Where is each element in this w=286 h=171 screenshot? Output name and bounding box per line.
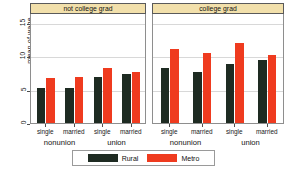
bar-metro [132, 72, 141, 123]
x-axis-group-label: nonunion [156, 138, 216, 147]
x-axis-tick-mark [234, 124, 235, 127]
legend-label-rural: Rural [122, 155, 139, 162]
panel-strip-label: college grad [152, 3, 284, 14]
panel-strip-label: not college grad [30, 3, 146, 14]
y-axis-tick-label: 0 [0, 119, 26, 126]
panel-not-college-grad: not college grad [30, 3, 146, 124]
legend-swatch-rural [88, 154, 118, 162]
bar-metro [235, 43, 244, 123]
legend-item-rural: Rural [88, 154, 139, 162]
y-axis-tick-label: 5 [0, 86, 26, 93]
legend-item-metro: Metro [147, 154, 199, 162]
bar-rural [226, 64, 235, 123]
panel-college-grad: college grad [152, 3, 284, 124]
x-axis-tick-mark [102, 124, 103, 127]
x-axis-category-label: married [247, 128, 286, 135]
legend: Rural Metro [72, 150, 215, 166]
bar-rural [258, 60, 267, 123]
bar-metro [203, 53, 212, 123]
bar-metro [268, 55, 277, 123]
x-axis-tick-mark [131, 124, 132, 127]
bars-container [153, 14, 283, 123]
bar-metro [46, 78, 55, 123]
bar-rural [65, 88, 74, 123]
x-axis-tick-mark [267, 124, 268, 127]
bars-container [31, 14, 145, 123]
x-axis-group-label: nonunion [30, 138, 90, 147]
plot-area [30, 14, 146, 124]
y-axis-tick-mark [27, 124, 30, 125]
x-axis-tick-mark [202, 124, 203, 127]
legend-label-metro: Metro [181, 155, 199, 162]
bar-metro [103, 68, 112, 123]
x-axis-tick-mark [45, 124, 46, 127]
x-axis-tick-mark [74, 124, 75, 127]
bar-metro [170, 49, 179, 123]
x-axis-group-label: union [87, 138, 147, 147]
x-axis-tick-mark [169, 124, 170, 127]
legend-swatch-metro [147, 154, 177, 162]
bar-rural [37, 88, 46, 123]
y-axis-tick-label: 15 [0, 19, 26, 26]
x-axis-group-label: union [221, 138, 281, 147]
bar-metro [75, 77, 84, 123]
plot-area [152, 14, 284, 124]
bar-rural [94, 77, 103, 123]
bar-rural [122, 74, 131, 123]
x-axis-category-label: married [111, 128, 151, 135]
bar-rural [193, 72, 202, 123]
chart-figure: mean of wage 051015 not college grad col… [0, 0, 286, 171]
bar-rural [161, 68, 170, 123]
y-axis-tick-label: 10 [0, 52, 26, 59]
